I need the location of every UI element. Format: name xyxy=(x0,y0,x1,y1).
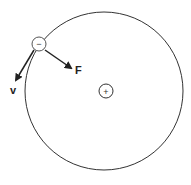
electron-sign: − xyxy=(36,39,41,49)
electron: − xyxy=(32,37,46,51)
velocity-label: v xyxy=(10,84,17,96)
force-arrow xyxy=(45,50,71,68)
velocity-arrow xyxy=(16,50,34,80)
atom-diagram: + − F v xyxy=(0,0,191,185)
nucleus-sign: + xyxy=(103,87,108,97)
force-label: F xyxy=(75,64,82,76)
nucleus: + xyxy=(99,84,113,98)
